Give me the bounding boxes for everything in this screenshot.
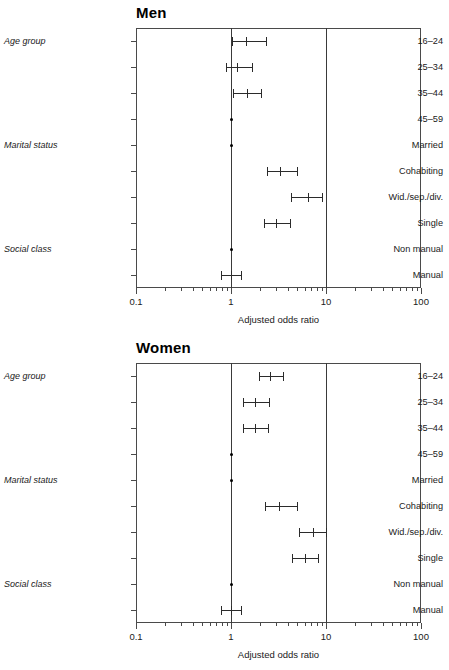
axis-tick-minor-2-6: [400, 623, 401, 626]
row-tick-3: [131, 119, 137, 120]
row-label-5: Cohabiting: [313, 166, 449, 176]
estimate-marker-7: [305, 554, 306, 563]
row-label-2: 35–44: [313, 88, 449, 98]
ci-cap-high-0: [266, 37, 267, 46]
reference-marker-3: [230, 453, 233, 456]
reference-marker-4: [230, 144, 233, 147]
axis-tick-minor-0-4: [193, 623, 194, 626]
ci-cap-low-1: [226, 63, 227, 72]
ci-line-6: [291, 197, 321, 198]
row-label-0: 16–24: [313, 36, 449, 46]
axis-tick-minor-2-5: [392, 288, 393, 291]
axis-tick-label-2: 10: [321, 631, 332, 642]
forest-plot-figure: Men Age groupMarital statusSocial class1…: [0, 0, 449, 670]
estimate-marker-6: [308, 193, 309, 202]
axis-tick-label-1: 1: [228, 296, 233, 307]
axis-tick-major-2: [326, 623, 327, 629]
axis-tick-minor-1-3: [276, 288, 277, 291]
axis-tick-minor-1-2: [260, 288, 261, 291]
ci-cap-high-0: [283, 372, 284, 381]
row-label-6: Wid./sep./div.: [313, 192, 449, 202]
ci-cap-low-2: [233, 89, 234, 98]
row-tick-0: [131, 376, 137, 377]
row-label-4: Married: [313, 475, 449, 485]
axis-tick-minor-2-8: [412, 288, 413, 291]
row-label-8: Non manual: [313, 244, 449, 254]
row-tick-5: [131, 506, 137, 507]
ci-cap-high-1: [269, 398, 270, 407]
axis-tick-minor-0-6: [210, 288, 211, 291]
panel-women: Women Age groupMarital statusSocial clas…: [0, 335, 449, 670]
axis-tick-minor-1-5: [297, 623, 298, 626]
axis-tick-minor-1-7: [311, 288, 312, 291]
row-tick-8: [131, 584, 137, 585]
ci-cap-high-9: [241, 606, 242, 615]
axis-tick-minor-1-4: [288, 623, 289, 626]
axis-tick-major-1: [231, 288, 232, 294]
ci-cap-low-0: [232, 37, 233, 46]
axis-tick-minor-0-6: [210, 623, 211, 626]
axis-tick-minor-2-9: [417, 288, 418, 291]
row-label-0: 16–24: [313, 371, 449, 381]
reference-marker-8: [230, 583, 233, 586]
estimate-marker-6: [313, 528, 314, 537]
axis-tick-minor-1-7: [311, 623, 312, 626]
row-label-5: Cohabiting: [313, 501, 449, 511]
axis-tick-label-0: 0.1: [129, 631, 142, 642]
axis-tick-minor-1-3: [276, 623, 277, 626]
axis-tick-major-3: [421, 288, 422, 294]
axis-tick-minor-0-3: [181, 623, 182, 626]
axis-tick-minor-0-9: [227, 623, 228, 626]
row-tick-7: [131, 223, 137, 224]
estimate-marker-9: [231, 606, 232, 615]
axis-tick-minor-0-8: [222, 288, 223, 291]
row-tick-4: [131, 145, 137, 146]
ci-cap-high-7: [290, 219, 291, 228]
row-label-3: 45–59: [313, 114, 449, 124]
ci-cap-low-0: [259, 372, 260, 381]
row-tick-7: [131, 558, 137, 559]
axis-tick-minor-0-5: [202, 623, 203, 626]
axis-tick-minor-0-9: [227, 288, 228, 291]
axis-tick-minor-0-2: [165, 288, 166, 291]
ci-cap-high-6: [322, 193, 323, 202]
estimate-marker-5: [279, 502, 280, 511]
row-label-9: Manual: [313, 605, 449, 615]
ci-cap-low-1: [243, 398, 244, 407]
ci-line-1: [226, 67, 252, 68]
axis-tick-major-3: [421, 623, 422, 629]
axis-tick-minor-1-8: [317, 623, 318, 626]
row-label-7: Single: [313, 553, 449, 563]
axis-tick-label-3: 100: [413, 296, 429, 307]
axis-tick-label-1: 1: [228, 631, 233, 642]
ci-cap-high-9: [241, 271, 242, 280]
group-label-age: Age group: [4, 36, 46, 46]
ci-cap-low-6: [299, 528, 300, 537]
axis-tick-minor-1-9: [322, 623, 323, 626]
row-label-1: 25–34: [313, 62, 449, 72]
axis-tick-major-2: [326, 288, 327, 294]
ci-line-0: [232, 41, 266, 42]
ci-cap-low-5: [265, 502, 266, 511]
ci-cap-low-5: [267, 167, 268, 176]
panel-title-women: Women: [136, 339, 191, 356]
axis-tick-minor-2-8: [412, 623, 413, 626]
row-tick-3: [131, 454, 137, 455]
ci-cap-high-2: [268, 424, 269, 433]
row-tick-4: [131, 480, 137, 481]
axis-tick-major-0: [136, 288, 137, 294]
axis-tick-minor-0-4: [193, 288, 194, 291]
axis-tick-minor-0-5: [202, 288, 203, 291]
axis-tick-minor-2-4: [383, 623, 384, 626]
row-label-8: Non manual: [313, 579, 449, 589]
panel-title-men: Men: [136, 4, 167, 21]
group-label-social: Social class: [4, 579, 52, 589]
ci-cap-high-5: [297, 167, 298, 176]
axis-tick-minor-2-7: [406, 623, 407, 626]
axis-tick-minor-2-5: [392, 623, 393, 626]
axis-tick-major-1: [231, 623, 232, 629]
axis-tick-minor-0-7: [216, 288, 217, 291]
row-tick-9: [131, 275, 137, 276]
row-tick-1: [131, 402, 137, 403]
axis-tick-minor-0-8: [222, 623, 223, 626]
